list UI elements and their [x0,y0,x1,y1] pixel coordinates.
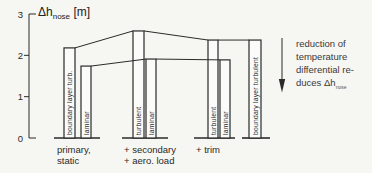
bar-label: laminar [83,111,90,135]
figure: 0123boundary layer turb.laminarturbulent… [0,0,372,173]
title-main: Δh [38,5,53,19]
bar-label: laminar [148,111,155,135]
annotation-last-main: duces Δh [296,77,336,88]
connector-line [75,31,133,48]
bar-label: laminar [222,111,229,135]
group-label: + secondary [124,144,176,155]
connector-line [144,31,208,40]
group-label: primary, [57,144,91,155]
annotation-last-subscript: nose [336,84,347,90]
down-arrow-head [279,79,285,93]
annotation-line: reduction of [296,37,370,50]
title-subscript: nose [53,12,70,21]
y-tick-label: 2 [18,50,23,61]
group-label: + trim [196,144,220,155]
group-label: static [57,155,79,166]
bar-label: turbulent [210,107,217,135]
y-tick-label: 0 [18,133,23,144]
bar-label: boundary layer turb. [66,71,74,135]
annotation-line: duces Δhnose [296,76,370,91]
bar-label: boundary layer turbulent [252,57,260,135]
annotation-text: reduction of temperature differential re… [296,37,370,91]
annotation-line: temperature [296,50,370,63]
y-tick-label: 3 [18,9,23,20]
group-label: + aero. load [124,155,174,166]
y-axis [29,14,36,138]
annotation-line: differential re- [296,63,370,76]
title-unit: [m] [70,5,90,19]
y-tick-label: 1 [18,91,23,102]
chart-title: Δhnose [m] [38,5,90,19]
bar-label: turbulent [135,107,142,135]
